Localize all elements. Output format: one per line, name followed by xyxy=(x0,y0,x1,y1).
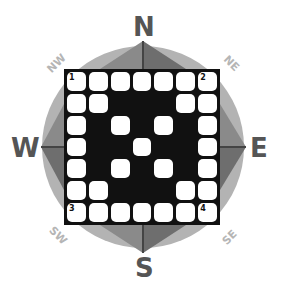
grid-cell[interactable] xyxy=(67,181,86,200)
clue-number: 4 xyxy=(200,204,206,213)
compass-west-label: W xyxy=(11,135,40,161)
grid-block xyxy=(133,94,152,113)
grid-cell[interactable] xyxy=(198,159,217,178)
grid-block xyxy=(133,181,152,200)
grid-cell[interactable] xyxy=(198,138,217,157)
grid-block xyxy=(111,94,130,113)
compass-north-label: N xyxy=(133,14,155,40)
grid-cell[interactable] xyxy=(67,138,86,157)
grid-block xyxy=(89,116,108,135)
grid-cell[interactable] xyxy=(89,181,108,200)
grid-block xyxy=(89,138,108,157)
grid-cell[interactable] xyxy=(133,203,152,222)
grid-cell[interactable] xyxy=(89,72,108,91)
crossword-grid: 1234 xyxy=(64,69,220,225)
grid-cell[interactable] xyxy=(154,203,173,222)
grid-cell[interactable]: 3 xyxy=(67,203,86,222)
grid-block xyxy=(154,94,173,113)
compass-south-label: S xyxy=(135,255,154,281)
grid-cell[interactable]: 1 xyxy=(67,72,86,91)
grid-block xyxy=(154,138,173,157)
grid-cell[interactable] xyxy=(89,203,108,222)
grid-cell[interactable] xyxy=(198,181,217,200)
grid-cell[interactable] xyxy=(67,116,86,135)
grid-block xyxy=(133,116,152,135)
grid-cell[interactable] xyxy=(176,72,195,91)
clue-number: 2 xyxy=(200,73,206,82)
grid-cell[interactable] xyxy=(111,116,130,135)
grid-cell[interactable]: 2 xyxy=(198,72,217,91)
grid-cell[interactable] xyxy=(133,138,152,157)
grid-cell[interactable] xyxy=(176,203,195,222)
grid-cell[interactable] xyxy=(198,94,217,113)
clue-number: 3 xyxy=(69,204,75,213)
grid-cell[interactable] xyxy=(133,72,152,91)
grid-block xyxy=(176,159,195,178)
grid-cell[interactable] xyxy=(154,116,173,135)
grid-cell[interactable] xyxy=(154,72,173,91)
grid-block xyxy=(176,138,195,157)
grid-cell[interactable] xyxy=(154,159,173,178)
grid-cell[interactable] xyxy=(111,72,130,91)
grid-cell[interactable] xyxy=(67,94,86,113)
grid-block xyxy=(111,181,130,200)
compass-east-label: E xyxy=(250,135,268,161)
grid-block xyxy=(154,181,173,200)
grid-cell[interactable] xyxy=(111,159,130,178)
grid-cell[interactable] xyxy=(67,159,86,178)
grid-cell[interactable] xyxy=(176,94,195,113)
grid-cell[interactable] xyxy=(111,203,130,222)
grid-block xyxy=(111,138,130,157)
grid-block xyxy=(176,116,195,135)
grid-cell[interactable] xyxy=(89,94,108,113)
grid-block xyxy=(89,159,108,178)
grid-block xyxy=(133,159,152,178)
grid-cell[interactable] xyxy=(176,181,195,200)
grid-cell[interactable] xyxy=(198,116,217,135)
grid-cell[interactable]: 4 xyxy=(198,203,217,222)
clue-number: 1 xyxy=(69,73,75,82)
